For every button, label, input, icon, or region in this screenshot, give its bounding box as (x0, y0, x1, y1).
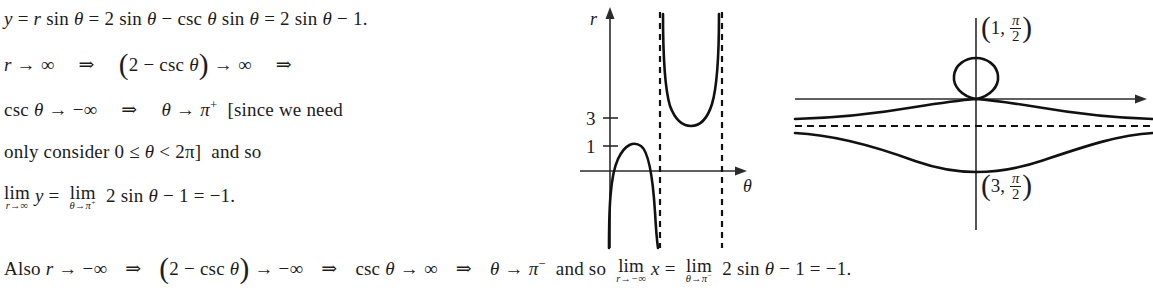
label2-comma: , (1000, 175, 1009, 196)
arrow-right-1: → (48, 99, 67, 120)
sin: sin (737, 258, 760, 279)
equals-1: = (665, 258, 676, 279)
arrow-right-2: → (254, 258, 273, 279)
equals-2: = (89, 8, 100, 29)
theta-4: θ (765, 258, 775, 279)
superscript-plus: + (210, 97, 217, 112)
equation-line-6: Alsor→−∞⇒(2−cscθ)→−∞⇒cscθ→∞⇒θ→π−and soli… (4, 256, 851, 285)
infinity-2: ∞ (238, 54, 252, 75)
implies-1: ⇒ (125, 258, 141, 279)
arrow-right-1: → (17, 54, 36, 75)
label1-r: 1 (991, 17, 1001, 38)
arrow-right-3: → (400, 258, 419, 279)
and-so-text: and so (211, 141, 261, 162)
implies-2: ⇒ (276, 54, 292, 75)
and-so-text: and so (556, 258, 606, 279)
right-paren: ) (239, 252, 249, 284)
theta-3: θ (490, 258, 500, 279)
sin-4: sin (295, 8, 318, 29)
r-axis-arrowhead (606, 7, 615, 19)
equals-1: = (18, 8, 29, 29)
lim-subscript-2: θ→π− (686, 274, 713, 285)
label2-pi: π (1010, 172, 1021, 187)
theta: θ (189, 54, 199, 75)
theta-2: θ (161, 99, 171, 120)
infinity: ∞ (424, 258, 438, 279)
tick-label-3: 3 (586, 108, 596, 129)
lim-sub-body-2: θ→π (70, 200, 92, 211)
equals-3: = (264, 8, 275, 29)
negative-infinity: −∞ (73, 99, 98, 120)
label1-lparen: ( (981, 14, 991, 43)
limit-operator-1: limr→∞ (4, 183, 30, 212)
arrow-right-2: → (176, 99, 195, 120)
var-y: y (4, 8, 13, 29)
equals-2: = (810, 258, 821, 279)
theta-1: θ (74, 8, 84, 29)
minus-1: − (184, 258, 195, 279)
theta-axis-arrowhead (735, 167, 747, 176)
csc: csc (4, 99, 29, 120)
sin: sin (121, 185, 144, 206)
lim-subscript-2: θ→π+ (70, 201, 97, 212)
less-equal: ≤ (129, 141, 140, 162)
cartesian-plot-svg: r θ 3 1 (580, 0, 790, 248)
num-2-b: 2 (280, 8, 290, 29)
minus-1: − (161, 8, 172, 29)
num-2-a: 2 (169, 258, 179, 279)
limit-operator-1: limr→−∞ (616, 256, 646, 285)
num-2: 2 (106, 185, 116, 206)
implies-1: ⇒ (79, 54, 95, 75)
bracket-note-open: [since we need (227, 99, 343, 120)
figure-cartesian-plot: r θ 3 1 (580, 0, 790, 248)
var-y: y (35, 185, 44, 206)
sin-3: sin (222, 8, 245, 29)
label-point-1-container: (1, π2) (981, 14, 1091, 66)
equation-line-5: limr→∞y=limθ→π+2sinθ−1=−1. (4, 183, 235, 212)
theta-1: θ (34, 99, 44, 120)
theta-1: θ (230, 258, 240, 279)
label1-rparen: ) (1022, 14, 1032, 43)
theta-3: θ (207, 8, 217, 29)
left-paren: ( (159, 252, 169, 284)
label-point-2-container: (3, π2) (981, 172, 1091, 224)
result-value: −1. (826, 258, 852, 279)
equals-1: = (49, 185, 60, 206)
theta-4: θ (250, 8, 260, 29)
lim-subscript-1: r→∞ (4, 201, 30, 212)
arrow-right-4: → (504, 258, 523, 279)
x-axis-arrowhead (1135, 95, 1147, 104)
superscript-minus: − (538, 256, 545, 271)
pi-symbol: π (200, 99, 210, 120)
label2-two: 2 (1010, 187, 1021, 202)
sin-1: sin (46, 8, 69, 29)
curve-lower-branch (795, 133, 1153, 172)
curve-left-arch (609, 144, 658, 248)
num-1: 1 (179, 185, 189, 206)
csc-2: csc (355, 258, 380, 279)
theta-5: θ (323, 8, 333, 29)
arrow-right-2: → (214, 54, 233, 75)
limit-operator-2: limθ→π+ (70, 183, 97, 212)
tick-label-1: 1 (586, 136, 596, 157)
theta: θ (145, 141, 155, 162)
var-r: r (34, 8, 42, 29)
var-r: r (46, 258, 54, 279)
csc: csc (159, 54, 184, 75)
sin-2: sin (119, 8, 142, 29)
lim-sub-superscript-2: + (91, 199, 96, 207)
solution-page: y=rsinθ=2sinθ−cscθsinθ=2sinθ−1. r→∞⇒(2−c… (0, 0, 1153, 299)
label2-fraction: π2 (1010, 172, 1021, 202)
lim-sub-superscript-2: − (707, 272, 712, 280)
limit-operator-2: limθ→π− (686, 256, 713, 285)
negative-infinity-1: −∞ (83, 258, 108, 279)
also-text: Also (4, 258, 41, 279)
label1-two: 2 (1010, 29, 1021, 44)
label-point-2: (3, π2) (981, 172, 1091, 203)
num-1-period: 1. (353, 8, 368, 29)
equation-line-1: y=rsinθ=2sinθ−cscθsinθ=2sinθ−1. (4, 8, 368, 30)
polar-conchoid-svg: (1, π2) (3, π2) (795, 0, 1153, 248)
equation-line-4: only consider 0≤θ<2π]and so (4, 141, 262, 163)
two-pi-bracket: 2π] (175, 141, 201, 162)
arrow-right-1: → (58, 258, 77, 279)
